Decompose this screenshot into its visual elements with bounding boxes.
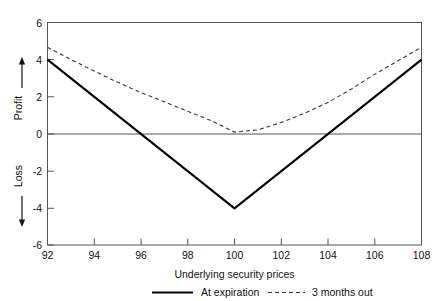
x-tick-label: 98 [182, 249, 194, 261]
x-tick-label: 100 [226, 249, 244, 261]
chart-legend: At expiration 3 months out [152, 286, 373, 298]
loss-down-arrow-icon [19, 196, 25, 227]
x-axis-title: Underlying security prices [174, 268, 294, 280]
x-tick-label: 104 [319, 249, 337, 261]
y-axis-tick-labels: 6 4 2 0 -2 -4 -6 [33, 17, 43, 252]
y-tick-label: 0 [36, 128, 42, 140]
y-tick-label: 4 [36, 54, 42, 66]
legend-label-at-expiration: At expiration [201, 286, 260, 298]
y-axis-ticks [48, 23, 55, 246]
x-tick-label: 102 [273, 249, 291, 261]
x-tick-label: 96 [135, 249, 147, 261]
x-tick-label: 108 [413, 249, 431, 261]
x-tick-label: 94 [88, 249, 100, 261]
series-3-months-out [48, 47, 422, 132]
x-tick-label: 106 [366, 249, 384, 261]
y-tick-label: 6 [36, 17, 42, 29]
profit-up-arrow-icon [19, 57, 25, 88]
y-tick-label: -2 [33, 165, 42, 177]
y-axis-title-profit: Profit [12, 96, 24, 121]
x-axis-tick-labels: 92 94 96 98 100 102 104 106 108 [42, 249, 431, 261]
legend-label-3-months-out: 3 months out [312, 286, 373, 298]
x-axis-ticks [48, 239, 422, 246]
y-tick-label: -4 [33, 202, 42, 214]
y-axis-title-group: Profit Loss [12, 57, 25, 227]
chart-figure: 6 4 2 0 -2 -4 -6 92 94 96 98 100 102 104… [0, 0, 448, 301]
chart-svg: 6 4 2 0 -2 -4 -6 92 94 96 98 100 102 104… [0, 0, 448, 301]
y-axis-title-loss: Loss [12, 165, 24, 187]
y-tick-label: 2 [36, 91, 42, 103]
x-tick-label: 92 [42, 249, 54, 261]
